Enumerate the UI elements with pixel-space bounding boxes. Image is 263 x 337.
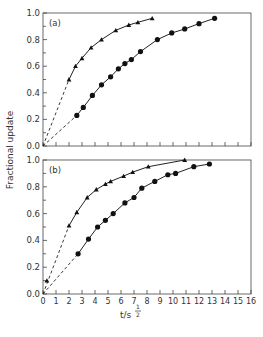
circle-marker xyxy=(108,74,113,79)
x-tick-label: 1 xyxy=(53,297,58,306)
circle-marker xyxy=(191,164,196,169)
fit-curve xyxy=(78,164,209,254)
fractional-update-chart: Fractional update 0.00.20.40.60.81.0(a) … xyxy=(0,0,263,337)
y-tick-label: 0.6 xyxy=(26,209,40,219)
fit-curve xyxy=(69,160,185,226)
circle-marker xyxy=(74,113,79,118)
triangle-marker xyxy=(99,37,104,41)
y-tick-label: 0.4 xyxy=(26,88,40,98)
triangle-marker xyxy=(67,223,72,227)
circle-marker xyxy=(196,21,201,26)
x-tick-label: 8 xyxy=(144,297,149,306)
circle-marker xyxy=(90,93,95,98)
circle-marker xyxy=(131,195,136,200)
y-tick-label: 0.8 xyxy=(26,182,40,192)
x-tick-label: 6 xyxy=(118,297,123,306)
y-tick-label: 0.6 xyxy=(26,61,40,71)
x-tick-label: 10 xyxy=(168,297,178,306)
panel-label: (a) xyxy=(49,18,61,28)
y-axis-label: Fractional update xyxy=(5,110,15,189)
circle-marker xyxy=(212,16,217,21)
fit-curve xyxy=(69,18,152,79)
triangle-marker xyxy=(103,182,108,186)
circle-marker xyxy=(99,82,104,87)
triangle-marker xyxy=(94,187,99,191)
circle-marker xyxy=(129,57,134,62)
circle-marker xyxy=(169,30,174,35)
circle-marker xyxy=(182,26,187,31)
extrapolation-line xyxy=(43,254,78,294)
panel-b: 0.00.20.40.60.81.00123456789101112131415… xyxy=(26,155,256,306)
svg-text:1: 1 xyxy=(136,303,140,310)
x-tick-label: 11 xyxy=(181,297,191,306)
circle-marker xyxy=(122,61,127,66)
circle-marker xyxy=(103,218,108,223)
x-tick-label: 14 xyxy=(220,297,230,306)
y-tick-label: 0.2 xyxy=(26,114,40,124)
y-tick-label: 1.0 xyxy=(26,8,40,18)
circle-marker xyxy=(111,211,116,216)
y-tick-label: 0.8 xyxy=(26,35,40,45)
circle-marker xyxy=(95,224,100,229)
panel-label: (b) xyxy=(49,165,61,175)
circle-marker xyxy=(155,37,160,42)
circle-marker xyxy=(139,186,144,191)
x-tick-label: 16 xyxy=(246,297,256,306)
panel-a: 0.00.20.40.60.81.0(a) xyxy=(26,8,251,151)
y-tick-label: 1.0 xyxy=(26,155,40,165)
circle-marker xyxy=(81,105,86,110)
x-tick-label: 12 xyxy=(194,297,204,306)
x-tick-label: 4 xyxy=(92,297,97,306)
circle-marker xyxy=(138,49,143,54)
circle-marker xyxy=(165,172,170,177)
circle-marker xyxy=(122,200,127,205)
extrapolation-line xyxy=(43,80,69,147)
x-tick-label: 9 xyxy=(157,297,162,306)
circle-marker xyxy=(76,251,81,256)
x-tick-label: 2 xyxy=(66,297,71,306)
extrapolation-line xyxy=(43,115,77,146)
circle-marker xyxy=(152,179,157,184)
extrapolation-line xyxy=(43,226,69,294)
triangle-marker xyxy=(67,77,72,81)
x-tick-label: 13 xyxy=(207,297,217,306)
circle-marker xyxy=(173,171,178,176)
y-tick-label: 0.2 xyxy=(26,262,40,272)
y-tick-label: 0.4 xyxy=(26,235,40,245)
x-tick-label: 0 xyxy=(40,297,45,306)
x-tick-label: 3 xyxy=(79,297,84,306)
circle-marker xyxy=(116,66,121,71)
plot-frame xyxy=(43,13,251,146)
y-tick-label: 0.0 xyxy=(26,141,40,151)
svg-text:2: 2 xyxy=(136,311,140,318)
x-tick-label: 15 xyxy=(233,297,243,306)
y-tick-label: 0.0 xyxy=(26,289,40,299)
plot-frame xyxy=(43,160,251,294)
x-tick-label: 5 xyxy=(105,297,110,306)
circle-marker xyxy=(207,161,212,166)
circle-marker xyxy=(86,236,91,241)
fit-curve xyxy=(77,18,215,115)
svg-text:t/s: t/s xyxy=(120,310,132,320)
triangle-marker xyxy=(150,16,155,20)
